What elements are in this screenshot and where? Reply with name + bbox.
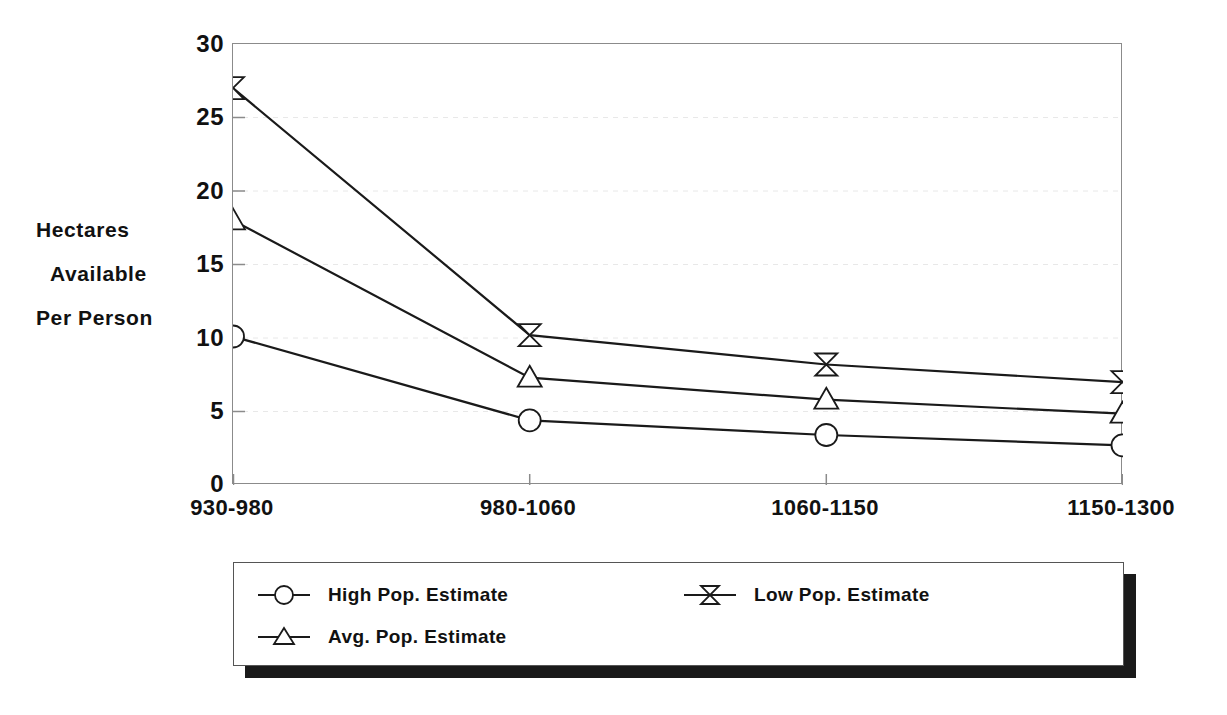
chart-figure: Hectares Available Per Person 30 25 20 1… — [0, 0, 1227, 715]
gridlines — [233, 118, 1123, 412]
legend-entry-high-pop-estimate[interactable]: High Pop. Estimate — [256, 575, 508, 615]
y-axis-title-line-1: Hectares — [36, 208, 184, 252]
legend-marker-bowtie-icon — [682, 582, 738, 608]
marker-circle — [815, 424, 837, 446]
plot-svg — [233, 44, 1123, 485]
x-tick-label-2: 1060-1150 — [715, 495, 935, 521]
series-line-avg — [233, 220, 1123, 413]
y-axis-ticks — [233, 118, 245, 412]
series-avg-pop-estimate — [233, 208, 1123, 422]
y-tick-label-0: 0 — [168, 470, 224, 498]
series-high-pop-estimate — [233, 326, 1123, 457]
legend-entry-avg-pop-estimate[interactable]: Avg. Pop. Estimate — [256, 617, 508, 657]
marker-circle — [1112, 434, 1124, 456]
series-markers-low — [233, 77, 1123, 393]
x-tick-label-0: 930-980 — [122, 495, 342, 521]
legend-label-avg-pop-estimate: Avg. Pop. Estimate — [328, 626, 507, 648]
y-axis-title-line-2: Available — [36, 252, 184, 296]
y-tick-label-30: 30 — [168, 30, 224, 58]
marker-circle — [519, 409, 541, 431]
legend-label-low-pop-estimate: Low Pop. Estimate — [754, 584, 930, 606]
y-tick-label-5: 5 — [168, 397, 224, 425]
legend: High Pop. Estimate Avg. Pop. Estimate Lo… — [233, 562, 1124, 666]
y-tick-label-15: 15 — [168, 250, 224, 278]
legend-entry-low-pop-estimate[interactable]: Low Pop. Estimate — [682, 575, 930, 615]
y-tick-label-25: 25 — [168, 103, 224, 131]
series-markers-avg — [233, 208, 1123, 422]
x-tick-label-1: 980-1060 — [418, 495, 638, 521]
legend-column-left: High Pop. Estimate Avg. Pop. Estimate — [256, 575, 508, 659]
y-tick-label-20: 20 — [168, 177, 224, 205]
legend-label-high-pop-estimate: High Pop. Estimate — [328, 584, 508, 606]
series-markers-high — [233, 326, 1123, 457]
x-tick-label-3: 1150-1300 — [1011, 495, 1227, 521]
y-axis-title: Hectares Available Per Person — [36, 208, 184, 340]
y-tick-label-10: 10 — [168, 324, 224, 352]
marker-circle — [233, 326, 244, 348]
plot-area — [232, 43, 1122, 484]
marker-triangle-up — [233, 208, 245, 229]
series-low-pop-estimate — [233, 77, 1123, 393]
x-axis-ticks — [234, 474, 1123, 485]
y-axis-title-line-3: Per Person — [36, 296, 184, 340]
marker-triangle-up — [518, 366, 542, 387]
series-line-high — [233, 337, 1123, 446]
legend-marker-circle-icon — [256, 582, 312, 608]
legend-column-right: Low Pop. Estimate — [682, 575, 930, 617]
legend-marker-triangle-up-icon — [256, 624, 312, 650]
